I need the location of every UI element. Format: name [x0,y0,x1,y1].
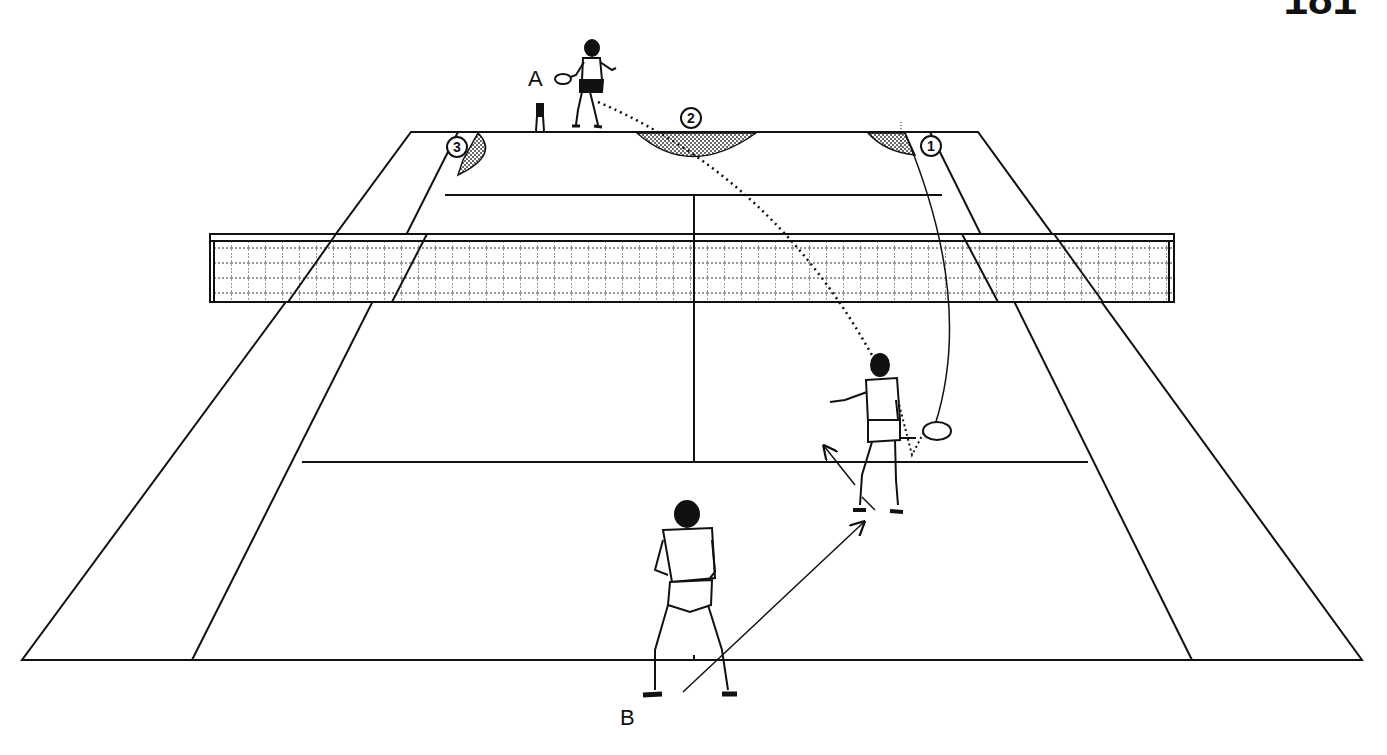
trajectory-dotted-small [898,400,925,455]
net [210,228,1174,310]
target-label-2: 2 [680,107,702,129]
player-a-label: A [528,66,543,92]
player-b-label: B [620,705,635,731]
left-singles-sideline [192,132,458,660]
target-zone-1 [868,133,915,155]
target-label-3: 3 [446,136,468,158]
net-player-figure [830,354,951,512]
net-tape [210,234,1174,241]
right-singles-sideline [930,132,1192,660]
target-zones [458,133,915,175]
player-b-figure [643,501,737,695]
arrow-net-player-movement [824,446,855,485]
player-a-figure [536,40,616,131]
target-label-1: 1 [920,135,942,157]
page-number: 181 [1284,0,1357,24]
net-mesh [210,241,1174,302]
target-zone-2 [637,133,756,157]
